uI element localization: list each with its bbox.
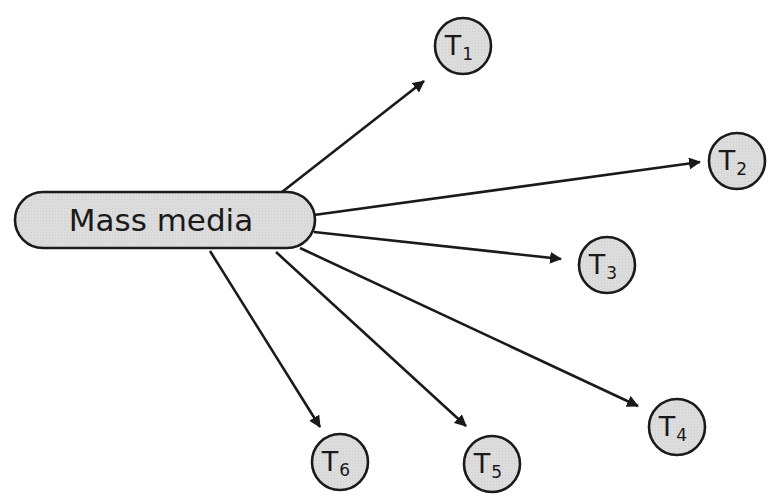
source-node: Mass media	[15, 192, 315, 248]
targets-group: T1T2T3T4T5T6	[312, 18, 765, 492]
target-node-t4: T4	[649, 399, 705, 455]
diagram-canvas: Mass media T1T2T3T4T5T6	[0, 0, 779, 502]
target-node-t6: T6	[312, 434, 368, 490]
mass-media-label: Mass media	[69, 202, 253, 238]
target-node-t1: T1	[435, 18, 491, 74]
target-node-t3: T3	[579, 237, 635, 293]
arrow-to-t3	[314, 232, 561, 259]
target-node-t5: T5	[464, 436, 520, 492]
target-node-t2: T2	[709, 133, 765, 189]
arrow-to-t1	[282, 81, 424, 192]
arrow-to-t2	[314, 162, 700, 215]
